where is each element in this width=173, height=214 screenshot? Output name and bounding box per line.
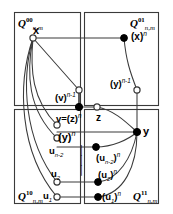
node-z[interactable] xyxy=(94,104,100,110)
node-label-y: y xyxy=(143,126,149,137)
node-label-y-nm1: (y)n-1 xyxy=(110,78,131,89)
node-v-eq-z-n[interactable] xyxy=(75,103,82,110)
node-x-n[interactable] xyxy=(121,35,128,42)
node-label-u-1-n: (u1)n xyxy=(102,191,121,205)
node-label-u-2: u2 xyxy=(51,169,60,182)
nodes xyxy=(30,35,141,201)
node-v-nm1[interactable] xyxy=(76,87,82,93)
node-label-z: z xyxy=(96,113,101,123)
node-u-1[interactable] xyxy=(54,194,60,200)
node-y-nm1[interactable] xyxy=(134,87,140,93)
vertical-ellipsis: │ │ │ xyxy=(79,145,85,175)
node-u-1-n[interactable] xyxy=(95,194,102,201)
node-label-u-2-n: (u2)n xyxy=(98,169,117,183)
graph-figure: Q00n,m Q01n,m Q10n,m Q11n,m x ((x)x)n (v… xyxy=(0,0,173,214)
node-label-u-1: u1 xyxy=(43,191,52,204)
node-label-u-nm2: un-2 xyxy=(49,146,63,159)
ellipsis-dash-2: │ xyxy=(79,155,85,165)
edge-z-to-y xyxy=(97,107,137,132)
ellipsis-dash-1: │ xyxy=(79,145,85,155)
node-label-v-nm1: (v)n-1 xyxy=(55,92,76,103)
node-label-u-nm2-n: (un-2)n xyxy=(96,152,120,166)
diagram-canvas xyxy=(0,0,173,214)
node-label-x: x xyxy=(33,25,39,36)
ellipsis-dash-3: │ xyxy=(79,165,85,175)
edge-x-to-yn-b xyxy=(30,38,57,138)
edge-unm2n-to-y xyxy=(96,132,137,147)
node-label-x-n: ((x)x)n xyxy=(131,31,147,42)
node-y[interactable] xyxy=(133,128,140,135)
quadrant-label-bottom-left: Q10n,m xyxy=(18,190,43,205)
node-label-y-n: (y)n xyxy=(58,130,76,143)
edge-x-to-vnm1 xyxy=(33,38,79,90)
node-u-nm2-n[interactable] xyxy=(93,144,100,151)
node-label-v-eq-z-n: v=(z)n xyxy=(56,113,81,124)
quadrant-label-bottom-right: Q11n,m xyxy=(133,190,157,205)
